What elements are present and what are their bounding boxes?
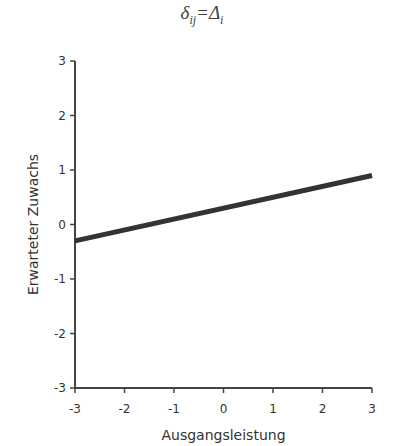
x-tick-label: 1 bbox=[269, 402, 277, 416]
y-tick-label: 1 bbox=[58, 163, 66, 177]
x-axis-label: Ausgangsleistung bbox=[161, 427, 285, 443]
x-tick-label: -1 bbox=[168, 402, 180, 416]
x-tick-label: -2 bbox=[119, 402, 131, 416]
y-tick-label: 3 bbox=[58, 54, 66, 68]
y-tick-label: -3 bbox=[54, 381, 66, 395]
y-tick-label: -1 bbox=[54, 272, 66, 286]
y-axis-label: Erwarteter Zuwachs bbox=[25, 154, 41, 295]
x-tick-label: -3 bbox=[69, 402, 81, 416]
x-tick-label: 0 bbox=[220, 402, 228, 416]
y-tick-label: 0 bbox=[58, 218, 66, 232]
y-tick-label: 2 bbox=[58, 109, 66, 123]
y-tick-label: -2 bbox=[54, 327, 66, 341]
data-line bbox=[75, 175, 372, 240]
line-chart: 3210-1-2-3-3-2-10123AusgangsleistungErwa… bbox=[0, 0, 404, 446]
x-tick-label: 3 bbox=[368, 402, 376, 416]
x-tick-label: 2 bbox=[319, 402, 327, 416]
